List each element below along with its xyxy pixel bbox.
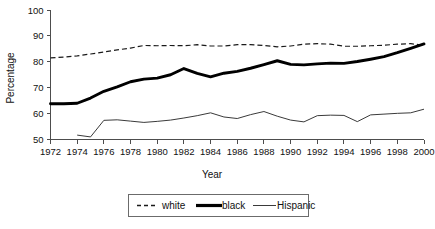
legend-label-hispanic: Hispanic	[277, 200, 315, 211]
y-tick-label: 70	[33, 82, 44, 93]
x-tick-label: 1992	[307, 146, 328, 157]
x-axis-ticks: 1972197419761978198019821984198619881990…	[40, 140, 435, 157]
y-axis-ticks: 5060708090100	[28, 5, 51, 146]
chart-container: Percentage 5060708090100 197219741976197…	[0, 0, 435, 229]
x-tick-label: 1996	[360, 146, 381, 157]
x-tick-label: 1986	[227, 146, 248, 157]
y-tick-label: 80	[33, 56, 44, 67]
series-line-black	[51, 44, 425, 104]
x-tick-label: 2000	[413, 146, 434, 157]
y-axis-title: Percentage	[5, 52, 16, 104]
legend-label-white: white	[161, 200, 186, 211]
x-tick-label: 1980	[147, 146, 168, 157]
x-tick-label: 1998	[387, 146, 408, 157]
y-tick-label: 90	[33, 30, 44, 41]
x-tick-label: 1972	[40, 146, 61, 157]
x-tick-label: 1990	[280, 146, 301, 157]
x-tick-label: 1988	[253, 146, 274, 157]
x-tick-label: 1974	[67, 146, 88, 157]
x-axis-title: Year	[202, 169, 223, 180]
y-tick-label: 60	[33, 108, 44, 119]
line-chart: Percentage 5060708090100 197219741976197…	[0, 0, 435, 229]
y-tick-label: 50	[33, 134, 44, 145]
chart-legend: white black Hispanic	[129, 195, 316, 217]
x-tick-label: 1994	[333, 146, 354, 157]
x-tick-label: 1976	[93, 146, 114, 157]
y-tick-label: 100	[28, 5, 44, 16]
x-tick-label: 1982	[173, 146, 194, 157]
legend-label-black: black	[222, 200, 246, 211]
series-line-hispanic	[77, 109, 424, 137]
series-line-white	[51, 44, 425, 58]
x-tick-label: 1984	[200, 146, 221, 157]
x-tick-label: 1978	[120, 146, 141, 157]
